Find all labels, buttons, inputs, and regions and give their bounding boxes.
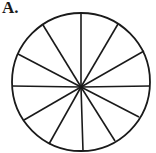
divided-circle: [0, 0, 156, 153]
spoke-line: [12, 86, 81, 87]
spoke-line: [81, 51, 144, 87]
spoke-line: [81, 87, 83, 151]
spoke-line: [81, 24, 118, 87]
spoke-line: [81, 86, 150, 87]
